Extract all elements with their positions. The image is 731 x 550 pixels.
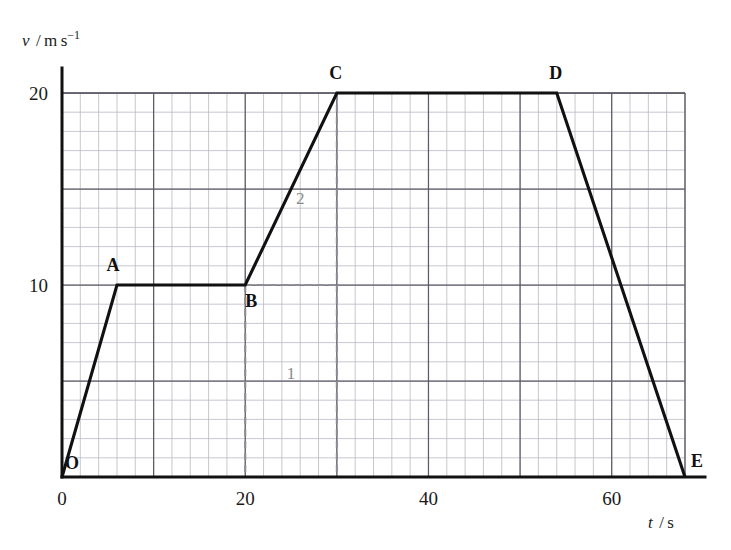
point-label-A: A (106, 255, 119, 275)
y-tick-label: 20 (29, 83, 48, 104)
x-tick-label: 40 (419, 488, 438, 509)
point-label-D: D (549, 63, 562, 83)
region-1: 1 (287, 364, 296, 383)
x-axis-symbol: t (648, 513, 654, 532)
x-tick-label: 60 (602, 488, 621, 509)
point-label-C: C (329, 63, 342, 83)
y-axis-label: v / m s−1 (22, 28, 80, 50)
y-axis-symbol: v (22, 31, 30, 50)
x-tick-label: 20 (236, 488, 255, 509)
graph-canvas: 0204060 1020 OABCDE 12 v / m s−1 t / s (0, 0, 731, 550)
axes (62, 68, 705, 477)
region-2: 2 (296, 189, 305, 208)
x-tick-label: 0 (57, 488, 67, 509)
x-axis-label-text: t / s (648, 513, 674, 532)
x-axis-label: t / s (648, 513, 674, 532)
point-label-O: O (65, 453, 79, 473)
point-label-B: B (245, 291, 257, 311)
y-axis-tick-labels: 1020 (29, 83, 48, 296)
y-axis-label-text: v / m s−1 (22, 28, 80, 50)
x-axis-tick-labels: 0204060 (57, 488, 621, 509)
y-tick-label: 10 (29, 275, 48, 296)
velocity-time-graph-figure: 0204060 1020 OABCDE 12 v / m s−1 t / s (0, 0, 731, 550)
point-labels: OABCDE (65, 63, 703, 473)
region-labels: 12 (287, 189, 305, 383)
point-label-E: E (691, 451, 703, 471)
